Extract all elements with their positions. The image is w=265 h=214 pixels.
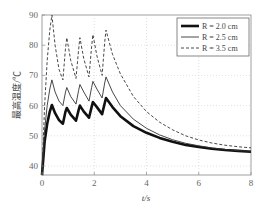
y-tick-label: 60 — [29, 101, 39, 111]
x-tick-label: 4 — [144, 178, 149, 188]
legend: R = 2.0 cmR = 2.5 cmR = 3.5 cm — [177, 18, 249, 56]
x-tick-label: 0 — [40, 178, 45, 188]
legend-entry: R = 3.5 cm — [202, 44, 238, 53]
temperature-chart: 02468 405060708090 t/s 最高温度/℃ R = 2.0 cm… — [0, 0, 265, 214]
y-tick-label: 70 — [29, 70, 39, 80]
legend-entry: R = 2.0 cm — [202, 22, 238, 31]
y-tick-label: 50 — [29, 131, 39, 141]
y-axis-label: 最高温度/℃ — [11, 71, 22, 119]
x-tick-label: 8 — [249, 178, 254, 188]
y-tick-label: 90 — [29, 10, 39, 20]
x-tick-label: 2 — [92, 178, 97, 188]
x-axis-label: t/s — [142, 193, 151, 203]
y-tick-label: 80 — [29, 40, 39, 50]
y-tick-label: 40 — [29, 161, 39, 171]
legend-entry: R = 2.5 cm — [202, 33, 238, 42]
x-tick-label: 6 — [197, 178, 202, 188]
